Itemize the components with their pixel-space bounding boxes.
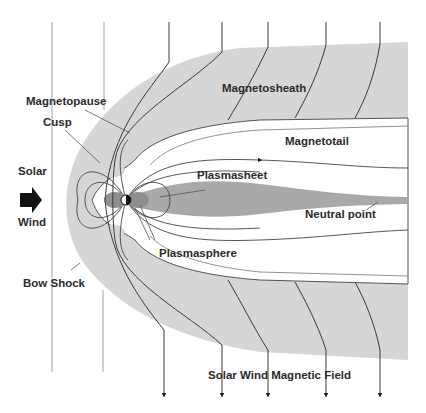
label-cusp: Cusp (43, 117, 72, 129)
diagram-graphic (0, 0, 426, 413)
label-plasmasheet: Plasmasheet (197, 170, 267, 182)
label-solar: Solar (18, 166, 47, 178)
label-neutral-point: Neutral point (305, 209, 376, 221)
solar-wind-arrow-icon (20, 187, 42, 213)
label-magnetotail: Magnetotail (285, 136, 349, 148)
magnetosphere-diagram: Magnetosheath Magnetopause Cusp Magnetot… (0, 0, 426, 413)
label-plasmasphere: Plasmasphere (159, 248, 237, 260)
label-solar-wind-magnetic-field: Solar Wind Magnetic Field (208, 370, 351, 382)
label-wind: Wind (18, 217, 46, 229)
label-magnetopause: Magnetopause (26, 96, 107, 108)
label-magnetosheath: Magnetosheath (222, 83, 306, 95)
label-bow-shock: Bow Shock (23, 278, 85, 290)
